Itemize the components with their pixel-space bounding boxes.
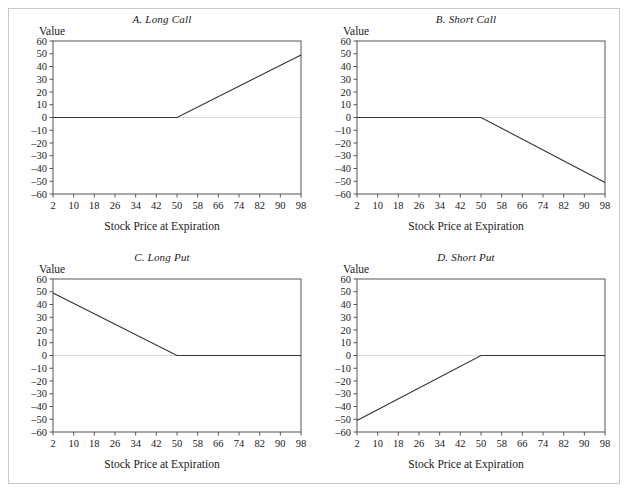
y-tick-label: 30 [37, 312, 48, 323]
y-tick-label: –20 [30, 138, 47, 149]
x-tick-label: 34 [130, 438, 141, 449]
y-tick-label: –10 [30, 363, 47, 374]
y-tick-label: –40 [30, 163, 47, 174]
y-tick-label: 40 [341, 61, 352, 72]
y-tick-label: 50 [37, 48, 48, 59]
x-tick-label: 98 [296, 200, 307, 211]
plot-area: 6050403020100–10–20–30–40–50–60210182634… [313, 247, 619, 485]
y-tick-label: 20 [341, 87, 352, 98]
x-tick-label: 74 [538, 200, 549, 211]
y-tick-label: 0 [346, 112, 351, 123]
x-tick-label: 58 [496, 200, 507, 211]
y-tick-label: –20 [334, 376, 351, 387]
x-tick-label: 10 [372, 200, 383, 211]
chart-panel-short-put: D. Short Put Value 6050403020100–10–20–3… [313, 247, 619, 485]
x-tick-label: 18 [393, 200, 404, 211]
payoff-line [53, 293, 301, 355]
y-tick-label: –20 [30, 376, 47, 387]
x-tick-label: 34 [434, 438, 445, 449]
x-axis-label: Stock Price at Expiration [9, 220, 315, 232]
y-tick-label: 10 [37, 337, 48, 348]
y-tick-label: –60 [30, 427, 47, 438]
x-tick-label: 42 [455, 438, 466, 449]
x-tick-label: 90 [275, 438, 286, 449]
y-tick-label: –50 [334, 414, 351, 425]
x-tick-label: 2 [354, 200, 359, 211]
x-tick-label: 50 [172, 200, 183, 211]
payoff-line [357, 118, 605, 183]
x-tick-label: 74 [538, 438, 549, 449]
plot-area: 6050403020100–10–20–30–40–50–60210182634… [313, 9, 619, 247]
y-tick-label: 40 [37, 299, 48, 310]
payoff-line [53, 55, 301, 117]
x-tick-label: 34 [434, 200, 445, 211]
y-tick-label: –50 [30, 176, 47, 187]
y-tick-label: 40 [37, 61, 48, 72]
y-tick-label: 0 [42, 350, 47, 361]
x-tick-label: 18 [89, 200, 100, 211]
x-tick-label: 58 [192, 438, 203, 449]
x-tick-label: 82 [558, 200, 569, 211]
x-tick-label: 34 [130, 200, 141, 211]
y-tick-label: –30 [30, 388, 47, 399]
y-tick-label: –40 [334, 401, 351, 412]
plot-area: 6050403020100–10–20–30–40–50–60210182634… [9, 9, 315, 247]
x-axis-label: Stock Price at Expiration [313, 220, 619, 232]
y-tick-label: –50 [334, 176, 351, 187]
y-tick-label: 10 [341, 99, 352, 110]
x-tick-label: 74 [234, 200, 245, 211]
y-tick-label: –60 [30, 189, 47, 200]
x-tick-label: 2 [354, 438, 359, 449]
y-tick-label: –10 [334, 363, 351, 374]
y-tick-label: 10 [341, 337, 352, 348]
y-tick-label: 50 [37, 286, 48, 297]
x-tick-label: 82 [254, 438, 265, 449]
x-tick-label: 50 [476, 200, 487, 211]
x-tick-label: 50 [476, 438, 487, 449]
x-tick-label: 82 [254, 200, 265, 211]
x-tick-label: 98 [296, 438, 307, 449]
y-tick-label: –30 [334, 150, 351, 161]
x-tick-label: 98 [600, 438, 611, 449]
y-tick-label: –20 [334, 138, 351, 149]
x-tick-label: 18 [393, 438, 404, 449]
y-tick-label: 60 [37, 36, 48, 47]
x-tick-label: 2 [50, 200, 55, 211]
x-tick-label: 10 [372, 438, 383, 449]
x-tick-label: 26 [110, 438, 121, 449]
plot-area: 6050403020100–10–20–30–40–50–60210182634… [9, 247, 315, 485]
y-tick-label: –60 [334, 427, 351, 438]
y-tick-label: 0 [346, 350, 351, 361]
x-tick-label: 66 [213, 200, 224, 211]
y-tick-label: 20 [341, 325, 352, 336]
chart-panel-short-call: B. Short Call Value 6050403020100–10–20–… [313, 9, 619, 247]
chart-panel-long-call: A. Long Call Value 6050403020100–10–20–3… [9, 9, 315, 247]
y-tick-label: 30 [341, 74, 352, 85]
y-tick-label: –10 [30, 125, 47, 136]
x-tick-label: 26 [110, 200, 121, 211]
x-tick-label: 10 [68, 200, 79, 211]
y-tick-label: 60 [341, 274, 352, 285]
option-payoff-figure: A. Long Call Value 6050403020100–10–20–3… [8, 8, 620, 484]
x-tick-label: 26 [414, 200, 425, 211]
x-tick-label: 98 [600, 200, 611, 211]
y-tick-label: 60 [341, 36, 352, 47]
x-tick-label: 50 [172, 438, 183, 449]
x-tick-label: 42 [455, 200, 466, 211]
y-tick-label: –10 [334, 125, 351, 136]
y-tick-label: 50 [341, 286, 352, 297]
x-tick-label: 90 [275, 200, 286, 211]
x-tick-label: 42 [151, 200, 162, 211]
y-tick-label: 50 [341, 48, 352, 59]
y-tick-label: 60 [37, 274, 48, 285]
x-tick-label: 18 [89, 438, 100, 449]
x-tick-label: 90 [579, 438, 590, 449]
y-tick-label: –60 [334, 189, 351, 200]
x-tick-label: 90 [579, 200, 590, 211]
y-tick-label: 40 [341, 299, 352, 310]
y-tick-label: 30 [37, 74, 48, 85]
x-tick-label: 66 [517, 438, 528, 449]
x-tick-label: 82 [558, 438, 569, 449]
y-tick-label: 20 [37, 87, 48, 98]
y-tick-label: 0 [42, 112, 47, 123]
